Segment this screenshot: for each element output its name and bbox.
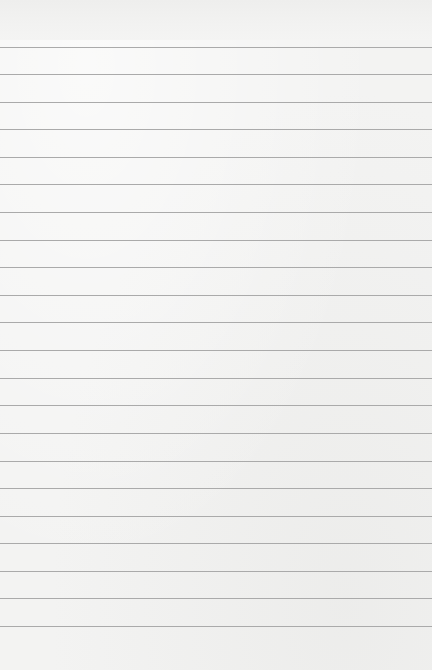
ruled-line [0,322,432,323]
ruled-line [0,378,432,379]
ruled-line [0,571,432,572]
ruled-line [0,74,432,75]
faded-header-area [0,0,432,40]
ruled-line [0,433,432,434]
ruled-line [0,129,432,130]
ruled-line [0,102,432,103]
ruled-line [0,212,432,213]
ruled-line [0,350,432,351]
ruled-line [0,405,432,406]
ruled-line [0,626,432,627]
ruled-line [0,184,432,185]
ruled-line [0,543,432,544]
ruled-line [0,157,432,158]
ruled-line [0,488,432,489]
ruled-line [0,47,432,48]
ruled-line [0,295,432,296]
ruled-line [0,240,432,241]
ruled-line [0,461,432,462]
ruled-line [0,267,432,268]
lined-paper-page [0,0,432,670]
ruled-line [0,516,432,517]
ruled-line [0,598,432,599]
